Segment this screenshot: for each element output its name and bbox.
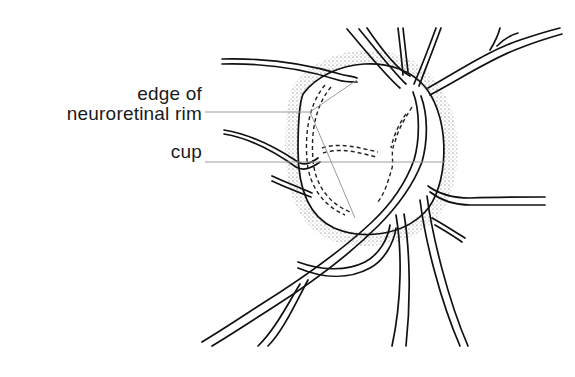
- optic-cup: [322, 107, 412, 203]
- disc-margin-stipple: [292, 57, 451, 239]
- neuroretinal-rim-edge: [306, 85, 350, 215]
- retinal-vessels: [202, 28, 562, 346]
- leader-lines: [205, 80, 445, 218]
- optic-disc-diagram: [0, 0, 575, 377]
